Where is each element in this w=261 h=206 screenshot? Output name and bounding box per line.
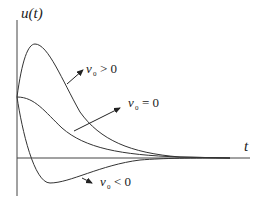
svg-text:0: 0 — [107, 183, 111, 191]
x-axis-label: t — [244, 138, 249, 154]
svg-text:v: v — [100, 174, 106, 189]
arrow-v0-zero — [74, 108, 120, 131]
svg-text:> 0: > 0 — [100, 61, 117, 76]
y-axis-label: u(t) — [21, 5, 43, 22]
label-v0-positive: v 0 > 0 — [86, 61, 117, 78]
svg-text:0: 0 — [93, 70, 97, 78]
svg-text:v: v — [86, 61, 92, 76]
curve-v0-negative — [17, 97, 230, 183]
svg-text:= 0: = 0 — [142, 95, 159, 110]
displacement-diagram: u(t) t v 0 > 0 v 0 = 0 v 0 < 0 — [0, 0, 261, 206]
label-v0-negative: v 0 < 0 — [100, 174, 131, 191]
svg-text:0: 0 — [135, 104, 139, 112]
arrow-v0-positive — [67, 70, 83, 84]
svg-text:< 0: < 0 — [114, 174, 131, 189]
label-v0-zero: v 0 = 0 — [128, 95, 159, 112]
curve-v0-positive — [17, 44, 230, 158]
curve-v0-zero — [17, 97, 230, 158]
arrow-v0-negative — [82, 178, 92, 183]
svg-text:v: v — [128, 95, 134, 110]
